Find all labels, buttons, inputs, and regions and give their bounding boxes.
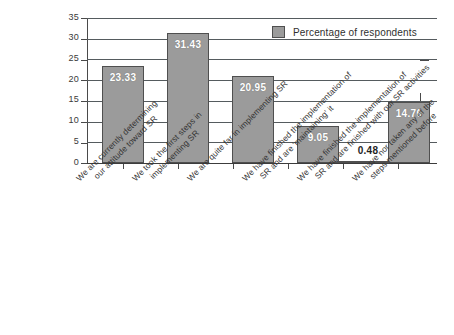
x-category-label-4-line1: We have finished the implementation of bbox=[240, 70, 354, 184]
x-axis-category-labels: We are currently determining our attitud… bbox=[0, 0, 454, 335]
bar-chart-figure: 35 30 25 20 15 10 5 0 23.33 bbox=[0, 0, 454, 335]
